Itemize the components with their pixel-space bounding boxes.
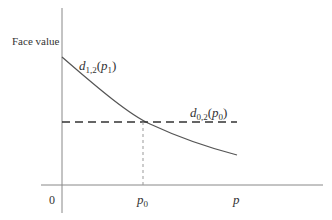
curve-label: d1,2(p1) [79,58,116,75]
face-value-diagram: Face value d1,2(p1) d0,2(p0) 0 p0 p [0,0,332,220]
dashed-line-label: d0,2(p0) [190,105,227,122]
x-tick-p: p [232,192,240,207]
x-tick-p0: p0 [136,192,149,209]
origin-label: 0 [49,193,55,207]
y-axis-label: Face value [12,35,59,47]
